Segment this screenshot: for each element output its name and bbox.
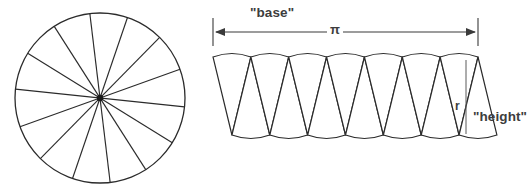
sector-circle (15, 13, 185, 183)
geometry-figure: "base" π r "height" (0, 0, 530, 189)
base-dimension (213, 18, 478, 46)
arrowhead-right-icon (466, 28, 476, 36)
pi-label: π (327, 23, 343, 36)
figure-canvas (0, 0, 530, 189)
arrowhead-left-icon (215, 28, 225, 36)
circle-center-dot (97, 95, 103, 101)
triangle-strip (213, 54, 497, 139)
radius-label: r (455, 100, 460, 112)
height-label: "height" (473, 110, 527, 124)
base-label: "base" (250, 6, 294, 20)
